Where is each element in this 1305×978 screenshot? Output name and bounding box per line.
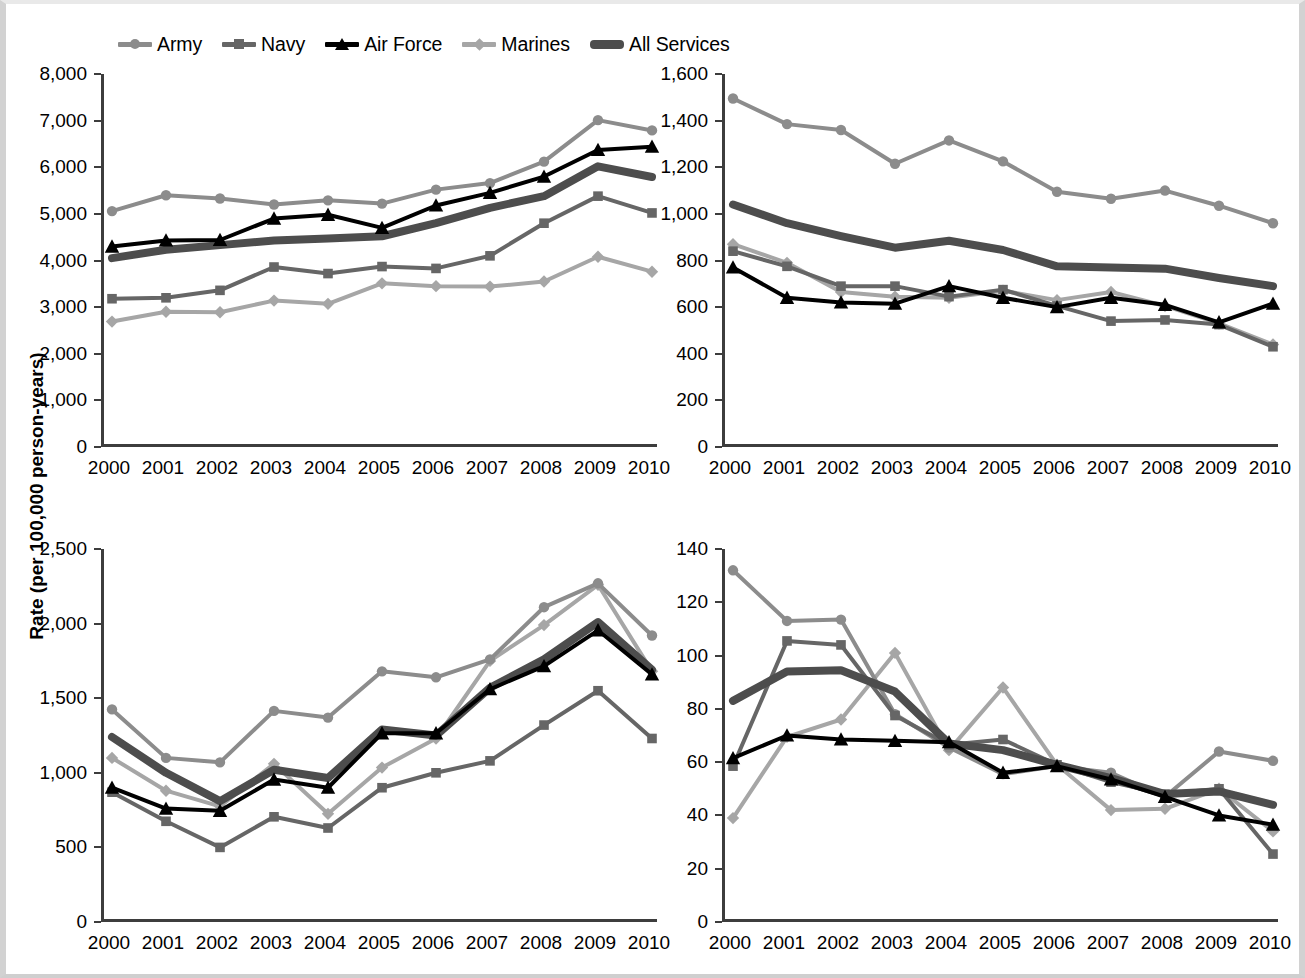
x-tick-label: 2009 [574, 932, 616, 954]
x-tick-label: 2000 [88, 932, 130, 954]
legend-label: Navy [261, 33, 305, 56]
legend-label: Marines [501, 33, 570, 56]
x-tick-label: 2009 [1195, 457, 1237, 479]
x-tick-label: 2006 [412, 932, 454, 954]
legend-swatch-diamond-icon [462, 37, 496, 51]
y-tick-mark [715, 814, 722, 816]
y-tick-label: 1,000 [14, 389, 87, 411]
y-tick-mark [94, 446, 101, 448]
y-tick-mark [94, 399, 101, 401]
y-tick-label: 0 [14, 436, 87, 458]
x-tick-label: 2005 [358, 457, 400, 479]
x-tick-label: 2002 [817, 457, 859, 479]
y-tick-mark [715, 708, 722, 710]
y-tick-mark [715, 306, 722, 308]
x-tick-label: 2007 [1087, 932, 1129, 954]
y-tick-label: 500 [14, 836, 87, 858]
y-tick-mark [715, 921, 722, 923]
legend-item-air-force[interactable]: Air Force [325, 33, 442, 56]
x-tick-label: 2010 [628, 932, 670, 954]
plot-area-copd [722, 549, 1278, 922]
x-tick-label: 2001 [142, 457, 184, 479]
legend-label: Air Force [364, 33, 442, 56]
y-tick-mark [715, 601, 722, 603]
legend-swatch-none-icon [590, 37, 624, 51]
series-asthma-all-services [733, 205, 1273, 287]
x-tick-label: 2006 [1033, 457, 1075, 479]
y-tick-label: 0 [640, 911, 708, 933]
y-tick-label: 1,000 [14, 762, 87, 784]
series-canvas-respiratory [104, 74, 660, 447]
x-tick-label: 2010 [628, 457, 670, 479]
legend-label: Army [157, 33, 202, 56]
y-tick-mark [94, 623, 101, 625]
y-tick-label: 1,400 [640, 110, 708, 132]
y-tick-label: 5,000 [14, 203, 87, 225]
y-tick-label: 200 [640, 389, 708, 411]
x-tick-label: 2005 [979, 457, 1021, 479]
y-tick-label: 120 [640, 591, 708, 613]
x-tick-label: 2009 [1195, 932, 1237, 954]
y-tick-mark [94, 306, 101, 308]
y-tick-mark [715, 548, 722, 550]
y-tick-label: 600 [640, 296, 708, 318]
chart-legend: ArmyNavyAir ForceMarinesAll Services [118, 30, 730, 58]
y-tick-mark [715, 446, 722, 448]
y-tick-label: 7,000 [14, 110, 87, 132]
x-tick-label: 2006 [1033, 932, 1075, 954]
y-tick-label: 1,600 [640, 63, 708, 85]
x-tick-label: 2008 [520, 932, 562, 954]
plot-area-asthma [722, 74, 1278, 447]
legend-item-all-services[interactable]: All Services [590, 33, 730, 56]
y-tick-mark [715, 120, 722, 122]
x-tick-label: 2000 [709, 457, 751, 479]
x-tick-label: 2005 [979, 932, 1021, 954]
y-tick-mark [94, 846, 101, 848]
x-tick-label: 2008 [1141, 932, 1183, 954]
legend-item-navy[interactable]: Navy [222, 33, 305, 56]
y-tick-mark [94, 548, 101, 550]
figure-root: ArmyNavyAir ForceMarinesAll Services Rat… [0, 0, 1305, 978]
x-tick-label: 2002 [196, 457, 238, 479]
y-tick-label: 3,000 [14, 296, 87, 318]
y-tick-label: 2,000 [14, 613, 87, 635]
y-tick-mark [94, 921, 101, 923]
x-tick-label: 2001 [763, 457, 805, 479]
y-tick-mark [94, 353, 101, 355]
y-tick-mark [94, 697, 101, 699]
x-tick-label: 2006 [412, 457, 454, 479]
legend-item-army[interactable]: Army [118, 33, 202, 56]
y-tick-label: 0 [640, 436, 708, 458]
y-tick-mark [715, 399, 722, 401]
y-tick-label: 4,000 [14, 250, 87, 272]
y-tick-mark [715, 868, 722, 870]
y-tick-label: 100 [640, 645, 708, 667]
plot-area-respiratory [101, 74, 657, 447]
y-tick-label: 1,200 [640, 156, 708, 178]
y-tick-mark [715, 655, 722, 657]
y-tick-mark [94, 120, 101, 122]
x-tick-label: 2001 [763, 932, 805, 954]
x-tick-label: 2000 [709, 932, 751, 954]
y-tick-label: 140 [640, 538, 708, 560]
y-tick-mark [94, 166, 101, 168]
y-tick-mark [715, 761, 722, 763]
y-tick-label: 0 [14, 911, 87, 933]
y-tick-label: 800 [640, 250, 708, 272]
series-asthma-army [728, 93, 1278, 228]
x-tick-label: 2008 [520, 457, 562, 479]
y-tick-label: 2,000 [14, 343, 87, 365]
series-canvas-bronchitis [104, 549, 660, 922]
x-tick-label: 2010 [1249, 932, 1291, 954]
y-tick-mark [94, 73, 101, 75]
legend-item-marines[interactable]: Marines [462, 33, 570, 56]
y-tick-label: 40 [640, 804, 708, 826]
x-tick-label: 2003 [871, 457, 913, 479]
y-tick-label: 2,500 [14, 538, 87, 560]
series-respiratory-army [107, 115, 657, 216]
y-tick-label: 8,000 [14, 63, 87, 85]
y-tick-label: 400 [640, 343, 708, 365]
series-canvas-copd [725, 549, 1281, 922]
x-tick-label: 2002 [817, 932, 859, 954]
legend-label: All Services [629, 33, 730, 56]
